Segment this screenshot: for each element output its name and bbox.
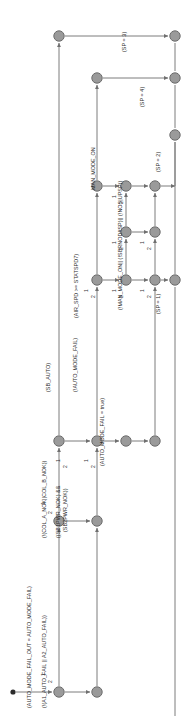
branch-number: 1 xyxy=(40,673,46,676)
state-node[interactable] xyxy=(170,130,180,140)
state-node[interactable] xyxy=(150,275,160,285)
state-node[interactable] xyxy=(92,275,102,285)
branch-number: 1 xyxy=(83,459,89,462)
branch-number: 2 xyxy=(90,465,96,468)
guard-label: (AUTO_MODE_FAIL_OUT = AUTO_MODE_FAIL) xyxy=(27,586,32,708)
branch-number: 2 xyxy=(62,465,68,468)
guard-label: (!(COL_A_NOK||COL_B_NOK)) xyxy=(42,461,47,538)
branch-number: 1 xyxy=(83,289,89,292)
branch-number: 2 xyxy=(146,247,152,250)
state-node[interactable] xyxy=(54,687,64,697)
branch-number: 2 xyxy=(118,247,124,250)
start-node[interactable] xyxy=(10,689,15,694)
guard-label: (SP = 2) xyxy=(156,152,161,172)
state-node[interactable] xyxy=(150,436,160,446)
edges-group xyxy=(16,36,175,716)
guard-label: (SP = 3) xyxy=(122,32,127,52)
branch-number: 1 xyxy=(139,289,145,292)
guard-label: (SB2PWR_NOK)) xyxy=(63,489,68,532)
guard-label: (AUTO_MODE_FAIL = true) xyxy=(100,398,105,466)
guard-label: (SB_AUTO) xyxy=(46,363,51,392)
state-node[interactable] xyxy=(121,436,131,446)
state-node[interactable] xyxy=(170,31,180,41)
diagram-canvas: (AUTO_MODE_FAIL_OUT = AUTO_MODE_FAIL)(!(… xyxy=(0,0,181,725)
guard-label: MAN_MODE_ON xyxy=(91,147,96,190)
branch-number: 2 xyxy=(47,511,53,514)
branch-number: 1 xyxy=(139,241,145,244)
guard-label: (!(A1_AUTO_FAIL || A2_AUTO_FAIL)) xyxy=(42,615,47,708)
branch-number: 1 xyxy=(40,502,46,505)
state-node[interactable] xyxy=(150,227,160,237)
guard-label: (SP = 4) xyxy=(140,87,145,107)
guard-label: (!AUTO_MODE_FAIL) xyxy=(73,338,78,392)
guard-label: (SP = 1) xyxy=(156,294,161,314)
branch-number: 2 xyxy=(47,680,53,683)
state-node[interactable] xyxy=(170,73,180,83)
guard-label: ((SB1PWR_NOK) && xyxy=(56,486,61,538)
branch-number: 1 xyxy=(55,459,61,462)
branch-number: 1 xyxy=(111,241,117,244)
guard-label: (AIR_SPD >= STATSPD7) xyxy=(74,254,79,318)
branch-number: 2 xyxy=(90,295,96,298)
state-node[interactable] xyxy=(92,516,102,526)
branch-number: 1 xyxy=(111,289,117,292)
state-node[interactable] xyxy=(150,181,160,191)
branch-number: 1 xyxy=(111,195,117,198)
state-node[interactable] xyxy=(170,275,180,285)
state-node[interactable] xyxy=(92,687,102,697)
state-node[interactable] xyxy=(92,73,102,83)
branch-number: 2 xyxy=(146,295,152,298)
branch-number: 2 xyxy=(118,201,124,204)
branch-number: 2 xyxy=(118,295,124,298)
state-node[interactable] xyxy=(54,31,64,41)
state-node[interactable] xyxy=(54,436,64,446)
